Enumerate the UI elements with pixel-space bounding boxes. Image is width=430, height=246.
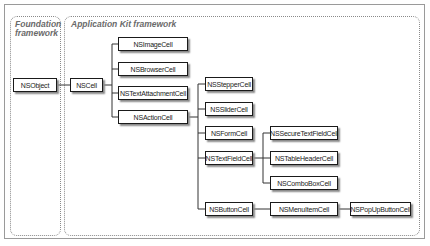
class-box-nsimagecell: NSImageCell [118, 37, 188, 51]
class-box-nsbrowsercell: NSBrowserCell [118, 62, 188, 76]
class-box-nssecuretextfieldcell: NSSecureTextFieldCell [270, 126, 338, 140]
class-box-nsslidercell: NSSliderCell [205, 102, 253, 116]
class-box-nspopupbuttoncell: NSPopUpButtonCell [350, 202, 411, 216]
class-box-nsformcell: NSFormCell [205, 126, 253, 140]
class-box-nscomboboxcell: NSComboBoxCell [270, 176, 338, 190]
class-box-nsbuttoncell: NSButtonCell [205, 202, 253, 216]
class-box-nsactioncell: NSActionCell [118, 110, 188, 124]
class-box-nstableheadercell: NSTableHeaderCell [270, 151, 338, 165]
class-box-nstextattachmentcell: NSTextAttachmentCell [118, 86, 188, 100]
class-box-nsobject: NSObject [13, 78, 57, 92]
class-box-nscell: NSCell [70, 78, 103, 92]
class-box-nstextfieldcell: NSTextFieldCell [205, 151, 253, 165]
class-box-nsmenuitemcell: NSMenuItemCell [270, 202, 338, 216]
class-box-nssteppercell: NSStepperCell [205, 77, 253, 91]
